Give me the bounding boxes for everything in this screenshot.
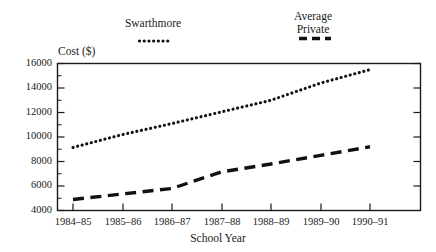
y-axis-major-ticks [58, 64, 421, 211]
plot-frame-border [58, 64, 421, 211]
chart-figure: Swarthmore Average Private Cost ($) Scho… [0, 0, 436, 252]
x-axis-major-ticks [73, 204, 370, 211]
plot-area [0, 0, 436, 252]
series-line-swarthmore [73, 70, 370, 148]
series-line-average-private [73, 147, 370, 200]
